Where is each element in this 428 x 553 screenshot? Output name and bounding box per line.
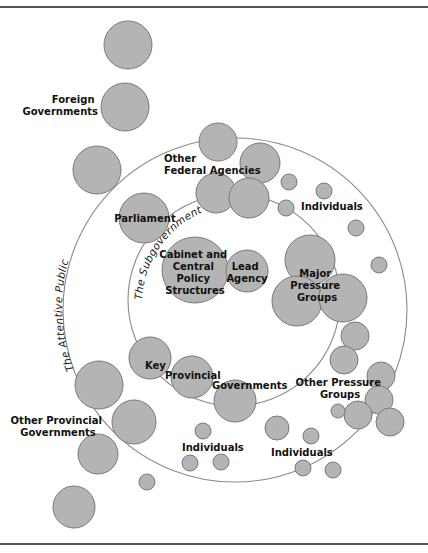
major-pressure-groups-label: Major Pressure Groups	[290, 268, 343, 303]
top-circle-node	[104, 21, 152, 69]
governments-label: Governments	[212, 380, 288, 391]
individual-1-node	[281, 174, 297, 190]
other-pressure-6-node	[331, 404, 345, 418]
subgovernment-diagram: The Attentive Public The Subgovernment F…	[0, 0, 428, 553]
other-pressure-2-node	[330, 346, 358, 374]
other-pressure-5-node	[344, 401, 372, 429]
individual-bl-2-node	[182, 455, 198, 471]
foreign-governments-label: Foreign Governments	[23, 94, 99, 117]
other-provincial-governments-label: Other Provincial Governments	[11, 415, 106, 438]
other-provincial-2-node	[112, 400, 156, 444]
attentive-public-label: The Attentive Public	[52, 258, 76, 374]
individual-bl-4-node	[139, 474, 155, 490]
individuals-bottom-right-label: Individuals	[271, 447, 333, 458]
other-provincial-1-node	[75, 361, 123, 409]
federal-agency-2-node	[240, 143, 280, 183]
individual-br-4-node	[325, 462, 341, 478]
individual-bl-3-node	[213, 454, 229, 470]
individual-br-2-node	[303, 428, 319, 444]
individual-bl-1-node	[195, 423, 211, 439]
lead-agency-label: Lead Agency	[226, 261, 268, 284]
left-circle-node	[73, 146, 121, 194]
other-provincial-4-node	[53, 486, 95, 528]
individual-br-1-node	[265, 416, 289, 440]
individual-5-node	[371, 257, 387, 273]
foreign-governments-node	[101, 83, 149, 131]
individual-4-node	[348, 220, 364, 236]
individuals-top-label: Individuals	[301, 201, 363, 212]
parliament-label: Parliament	[114, 213, 176, 224]
individual-br-3-node	[295, 460, 311, 476]
individual-2-node	[316, 183, 332, 199]
federal-agency-4-node	[229, 178, 269, 218]
other-pressure-7-node	[376, 408, 404, 436]
federal-agency-1-node	[199, 123, 237, 161]
individual-3-node	[278, 200, 294, 216]
other-provincial-3-node	[78, 434, 118, 474]
key-label: Key	[145, 360, 166, 371]
individuals-bottom-left-label: Individuals	[182, 442, 244, 453]
